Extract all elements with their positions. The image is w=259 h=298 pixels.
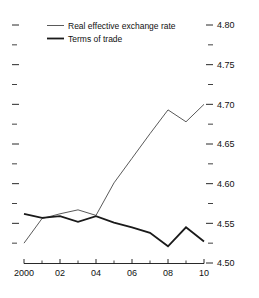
line-chart: 20000204060810 4.504.554.604.654.704.754… <box>0 0 259 298</box>
chart-legend: Real effective exchange rate Terms of tr… <box>47 21 176 44</box>
y-tick-label: 4.75 <box>217 60 235 70</box>
y-tick-label: 4.65 <box>217 139 235 149</box>
x-axis-tick-labels: 20000204060810 <box>14 268 209 278</box>
x-axis-ticks <box>24 259 204 264</box>
y-tick-label: 4.50 <box>217 258 235 268</box>
y-axis-tick-labels-right: 4.504.554.604.654.704.754.80 <box>217 20 235 268</box>
y-axis-ticks-right <box>206 25 213 263</box>
series-line-terms-of-trade <box>24 214 204 247</box>
legend-label-terms-of-trade: Terms of trade <box>68 34 123 44</box>
x-tick-label: 06 <box>127 268 137 278</box>
y-tick-label: 4.60 <box>217 179 235 189</box>
x-tick-label: 2000 <box>14 268 34 278</box>
legend-label-real-effective-exchange-rate: Real effective exchange rate <box>68 21 176 31</box>
x-tick-label: 04 <box>91 268 101 278</box>
x-tick-label: 02 <box>55 268 65 278</box>
y-tick-label: 4.70 <box>217 100 235 110</box>
y-tick-label: 4.80 <box>217 20 235 30</box>
chart-figure: 20000204060810 4.504.554.604.654.704.754… <box>0 0 259 298</box>
y-tick-label: 4.55 <box>217 219 235 229</box>
x-tick-label: 08 <box>163 268 173 278</box>
y-axis-ticks-left <box>12 25 19 243</box>
x-tick-label: 10 <box>199 268 209 278</box>
